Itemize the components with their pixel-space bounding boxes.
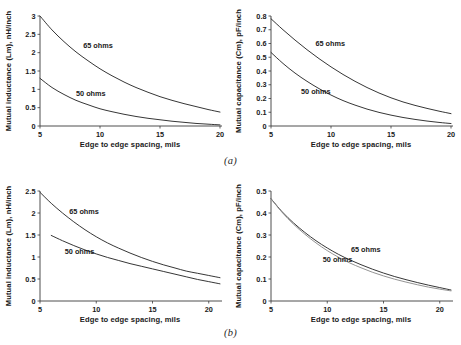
- chart-a-right-mutual-capacitance: 00.10.20.30.40.50.60.70.8510152065 ohms5…: [228, 2, 461, 152]
- plot-panel-a-left: 00.511.522.53510152065 ohms50 ohmsEdge t…: [0, 2, 230, 152]
- y-tick-label: 0.3: [256, 80, 266, 89]
- curve-label-65-ohms: 65 ohms: [69, 207, 99, 216]
- y-axis-title: Mutual inductance (Lm), nH/inch: [4, 11, 13, 132]
- plot-panel-a-right: 00.10.20.30.40.50.60.70.8510152065 ohms5…: [228, 2, 458, 152]
- x-axis-title: Edge to edge spacing, mils: [311, 140, 412, 149]
- subfigure-caption-a: (a): [0, 155, 461, 166]
- y-axis-title: Mutual inductance (Lm), nH/inch: [4, 186, 13, 307]
- chart-a-left-mutual-inductance: 00.511.522.53510152065 ohms50 ohmsEdge t…: [0, 2, 230, 152]
- x-tick-label: 10: [327, 130, 335, 139]
- y-tick-label: 0.2: [256, 253, 266, 262]
- y-tick-label: 0: [262, 297, 266, 306]
- x-tick-label: 5: [38, 305, 42, 314]
- y-tick-label: 0: [31, 297, 35, 306]
- y-tick-label: 2.5: [25, 30, 35, 39]
- y-tick-label: 0.8: [256, 12, 266, 21]
- y-tick-label: 0.5: [25, 103, 35, 112]
- y-tick-label: 0.6: [256, 39, 266, 48]
- y-tick-label: 0.5: [256, 187, 266, 196]
- x-tick-label: 10: [323, 305, 331, 314]
- x-tick-label: 5: [38, 130, 42, 139]
- curve-label-50-ohms: 50 ohms: [323, 255, 353, 264]
- y-tick-label: 1: [31, 85, 35, 94]
- x-tick-label: 10: [92, 305, 100, 314]
- y-tick-label: 0: [262, 122, 266, 131]
- plot-panel-b-left: 00.511.522.5510152065 ohms50 ohmsEdge to…: [0, 177, 230, 327]
- axis-spines: [271, 16, 453, 126]
- y-tick-label: 0.5: [25, 275, 35, 284]
- x-axis-title: Edge to edge spacing, mils: [311, 315, 412, 324]
- x-tick-label: 20: [447, 130, 455, 139]
- curve-50-ohms: [271, 52, 451, 123]
- y-tick-label: 0.3: [256, 231, 266, 240]
- curve-65-ohms: [271, 19, 451, 114]
- chart-b-right-mutual-capacitance: 00.10.20.30.40.5510152065 ohms50 ohmsEdg…: [228, 177, 461, 327]
- x-tick-label: 10: [96, 130, 104, 139]
- y-tick-label: 0.2: [256, 94, 266, 103]
- x-tick-label: 15: [379, 305, 387, 314]
- curve-50-ohms: [51, 235, 220, 283]
- curve-label-65-ohms: 65 ohms: [351, 245, 381, 254]
- chart-b-left-mutual-inductance: 00.511.522.5510152065 ohms50 ohmsEdge to…: [0, 177, 230, 327]
- curve-65-ohms: [40, 192, 220, 277]
- axis-spines: [40, 191, 222, 301]
- x-tick-label: 5: [269, 130, 273, 139]
- x-tick-label: 20: [436, 305, 444, 314]
- x-tick-label: 15: [148, 305, 156, 314]
- x-tick-label: 15: [156, 130, 164, 139]
- y-tick-label: 2.5: [25, 187, 35, 196]
- y-tick-label: 0.1: [256, 108, 266, 117]
- x-tick-label: 5: [269, 305, 273, 314]
- figure-container: 00.511.522.53510152065 ohms50 ohmsEdge t…: [0, 0, 461, 345]
- plot-panel-b-right: 00.10.20.30.40.5510152065 ohms50 ohmsEdg…: [228, 177, 458, 327]
- y-tick-label: 0.4: [256, 67, 267, 76]
- y-tick-label: 0: [31, 122, 35, 131]
- curve-label-50-ohms: 50 ohms: [301, 87, 331, 96]
- y-tick-label: 0.5: [256, 53, 266, 62]
- x-tick-label: 20: [205, 305, 213, 314]
- x-axis-title: Edge to edge spacing, mils: [80, 315, 181, 324]
- x-tick-label: 15: [387, 130, 395, 139]
- curve-label-50-ohms: 50 ohms: [65, 247, 95, 256]
- y-tick-label: 1: [31, 253, 35, 262]
- y-tick-label: 0.7: [256, 25, 266, 34]
- curve-label-50-ohms: 50 ohms: [76, 89, 106, 98]
- figure-row-a: 00.511.522.53510152065 ohms50 ohmsEdge t…: [0, 2, 461, 157]
- y-tick-label: 2: [31, 48, 35, 57]
- y-tick-label: 3: [31, 12, 35, 21]
- subfigure-caption-b: (b): [0, 327, 461, 338]
- x-tick-label: 20: [216, 130, 224, 139]
- y-axis-title: Mutual capacitance (Cm), pF/inch: [234, 9, 243, 133]
- y-tick-label: 0.1: [256, 275, 266, 284]
- y-axis-title: Mutual capacitance (Cm), pF/inch: [234, 184, 243, 308]
- y-tick-label: 0.4: [256, 209, 267, 218]
- curve-65-ohms: [40, 16, 220, 112]
- y-tick-label: 2: [31, 209, 35, 218]
- y-tick-label: 1.5: [25, 231, 35, 240]
- axis-spines: [40, 16, 222, 126]
- figure-row-b: 00.511.522.5510152065 ohms50 ohmsEdge to…: [0, 177, 461, 332]
- curve-label-65-ohms: 65 ohms: [83, 41, 113, 50]
- curve-label-65-ohms: 65 ohms: [315, 39, 345, 48]
- x-axis-title: Edge to edge spacing, mils: [80, 140, 181, 149]
- y-tick-label: 1.5: [25, 67, 35, 76]
